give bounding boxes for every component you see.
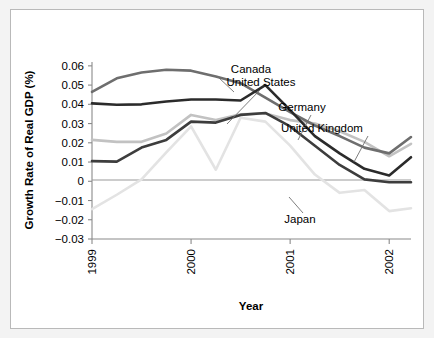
x-tick-label: 2002 [383,249,395,275]
chart-panel: 0.060.050.040.030.020.010−0.01−0.02−0.03… [10,9,424,329]
series-label-united-states: United States [226,76,295,88]
y-tick-label: −0.01 [55,195,84,207]
y-axis-title: Growth Rate of Real GDP (%) [23,70,35,229]
x-tick-label: 2000 [185,249,197,275]
figure-container: 0.060.050.040.030.020.010−0.01−0.02−0.03… [0,0,434,338]
annotation-leader-line [289,197,303,213]
y-tick-label: −0.03 [55,233,84,245]
x-tick-label: 1999 [86,249,98,275]
y-tick-label: 0.01 [62,156,84,168]
y-axis-ticks: 0.060.050.040.030.020.010−0.01−0.02−0.03 [55,60,92,245]
series-lines [92,70,411,211]
x-axis-ticks: 1999200020012002 [86,239,395,275]
y-tick-label: 0.05 [62,79,84,91]
x-axis-title: Year [239,300,264,312]
x-tick-label: 2001 [284,249,296,275]
y-tick-label: 0.02 [62,137,84,149]
series-label-japan: Japan [284,213,315,225]
gdp-growth-line-chart: 0.060.050.040.030.020.010−0.01−0.02−0.03… [11,10,423,328]
y-tick-label: 0.03 [62,118,84,130]
y-tick-label: 0.04 [62,98,85,110]
series-label-canada: Canada [231,63,272,75]
y-tick-label: 0 [78,175,84,187]
series-label-germany: Germany [278,101,326,113]
y-tick-label: 0.06 [62,60,84,72]
series-line-japan [92,118,411,211]
y-tick-label: −0.02 [55,214,84,226]
series-annotations: CanadaUnited StatesGermanyUnited Kingdom… [218,63,368,225]
series-label-united-kingdom: United Kingdom [281,122,363,134]
